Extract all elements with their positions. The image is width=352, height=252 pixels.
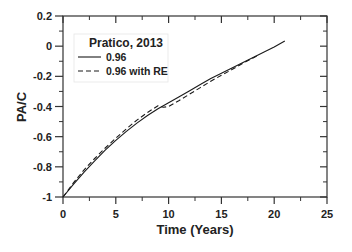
x-tick-label: 0 xyxy=(60,208,66,220)
x-tick-label: 10 xyxy=(162,208,174,220)
x-tick-label: 15 xyxy=(215,208,227,220)
x-axis-title: Time (Years) xyxy=(156,222,233,237)
x-tick-label: 25 xyxy=(321,208,333,220)
y-tick-label: 0 xyxy=(46,40,52,52)
y-tick-label: -0.2 xyxy=(33,70,52,82)
y-tick-label: -0.4 xyxy=(33,101,53,113)
x-tick-label: 5 xyxy=(113,208,119,220)
y-tick-label: -0.8 xyxy=(33,161,52,173)
legend: Pratico, 2013 0.96 0.96 with RE xyxy=(74,34,168,82)
legend-label-0: 0.96 xyxy=(106,51,127,63)
chart: 0510152025 -1-0.8-0.6-0.4-0.200.2 Time (… xyxy=(0,0,352,252)
legend-title: Pratico, 2013 xyxy=(89,36,163,50)
y-tick-label: -1 xyxy=(42,191,52,203)
y-tick-label: 0.2 xyxy=(37,10,52,22)
x-tick-label: 20 xyxy=(268,208,280,220)
y-axis-title: PA/C xyxy=(14,91,29,122)
y-tick-label: -0.6 xyxy=(33,131,52,143)
legend-label-1: 0.96 with RE xyxy=(106,65,168,77)
